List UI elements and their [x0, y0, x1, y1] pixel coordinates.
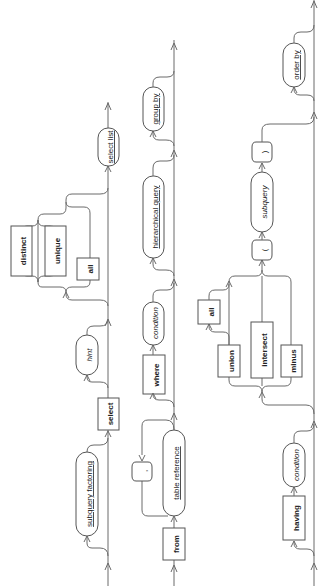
intersect-keyword-label: intersect: [260, 333, 269, 367]
unique-keyword-label: unique: [53, 237, 62, 264]
comma-label: ,: [140, 470, 149, 472]
where-keyword-label: where: [152, 363, 161, 388]
where-condition-label: condition: [151, 306, 160, 339]
row-1: subquery factoring select hint distinct …: [11, 102, 119, 586]
select-keyword-label: select: [106, 402, 115, 425]
close-paren-label: ): [260, 150, 269, 153]
table-reference-label: table reference: [172, 446, 181, 500]
subquery-label: subquery: [260, 185, 269, 219]
select-list-label: select list: [106, 130, 115, 164]
group-by-label: group by: [151, 93, 160, 124]
row-3: having condition union all intersect min…: [198, 0, 317, 586]
distinct-keyword-label: distinct: [19, 236, 28, 265]
all-keyword-label: all: [86, 265, 95, 274]
hint-label: hint: [85, 348, 94, 362]
hierarchical-query-label: hierarchical query: [151, 185, 160, 248]
row-2: from table reference , where condition h…: [132, 40, 185, 586]
having-keyword-label: having: [292, 505, 301, 531]
subquery-factoring-label: subquery factoring: [85, 461, 94, 527]
syntax-diagram: subquery factoring select hint distinct …: [0, 0, 325, 586]
union-all-keyword-label: all: [207, 308, 216, 317]
from-keyword-label: from: [172, 535, 181, 553]
order-by-label: order by: [292, 50, 301, 79]
union-keyword-label: union: [227, 350, 236, 372]
having-condition-label: condition: [292, 448, 301, 481]
open-paren-label: (: [260, 248, 269, 251]
minus-keyword-label: minus: [289, 349, 298, 373]
